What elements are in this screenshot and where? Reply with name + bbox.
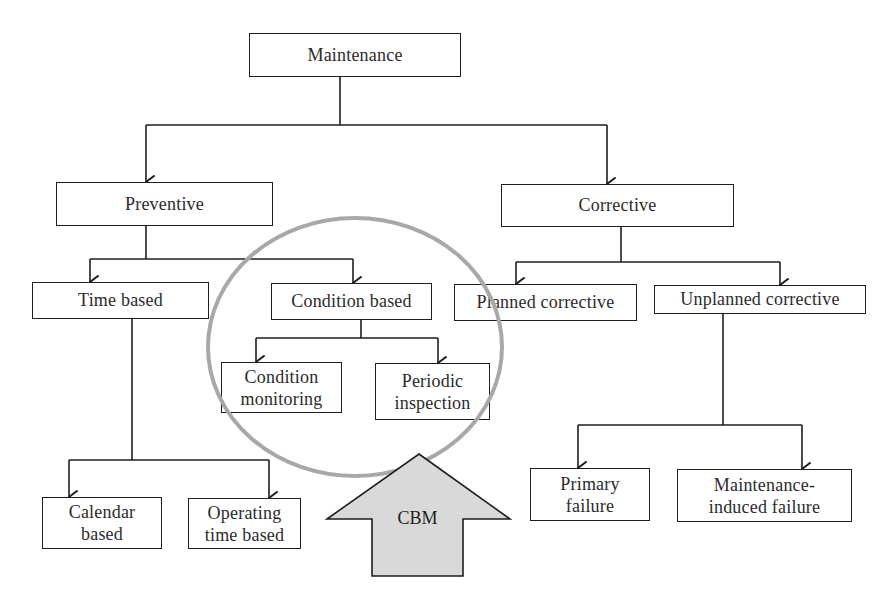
node-calendar-based-line1: Calendar bbox=[69, 501, 136, 523]
node-primary-failure-line2: failure bbox=[566, 495, 614, 517]
node-time-based: Time based bbox=[32, 282, 209, 319]
node-unplanned-corrective-label: Unplanned corrective bbox=[680, 289, 839, 310]
node-maintenance-label: Maintenance bbox=[307, 45, 402, 66]
node-maintenance: Maintenance bbox=[249, 33, 461, 77]
node-maintenance-induced-failure-line2: induced failure bbox=[709, 496, 820, 518]
node-planned-corrective: Planned corrective bbox=[454, 284, 637, 321]
node-operating-time-based-line2: time based bbox=[205, 524, 284, 546]
node-condition-based-label: Condition based bbox=[291, 291, 412, 312]
node-corrective: Corrective bbox=[501, 184, 734, 227]
node-time-based-label: Time based bbox=[78, 290, 163, 311]
node-maintenance-induced-failure: Maintenance- induced failure bbox=[677, 469, 852, 522]
maintenance-taxonomy-diagram: Maintenance Preventive Corrective Time b… bbox=[0, 0, 895, 605]
node-planned-corrective-label: Planned corrective bbox=[476, 292, 614, 313]
node-periodic-inspection: Periodic inspection bbox=[375, 363, 490, 420]
node-corrective-label: Corrective bbox=[579, 195, 657, 216]
node-maintenance-induced-failure-line1: Maintenance- bbox=[714, 474, 815, 496]
node-preventive: Preventive bbox=[56, 182, 273, 226]
node-operating-time-based: Operating time based bbox=[188, 498, 301, 549]
node-calendar-based-line2: based bbox=[81, 523, 123, 545]
cbm-arrow-label: CBM bbox=[372, 508, 463, 529]
node-primary-failure-line1: Primary bbox=[560, 473, 619, 495]
node-condition-monitoring-line2: monitoring bbox=[241, 388, 323, 410]
node-calendar-based: Calendar based bbox=[42, 497, 162, 549]
node-periodic-inspection-line2: inspection bbox=[395, 392, 471, 414]
node-condition-monitoring: Condition monitoring bbox=[221, 362, 342, 413]
node-condition-based: Condition based bbox=[271, 283, 432, 320]
node-unplanned-corrective: Unplanned corrective bbox=[654, 285, 866, 314]
node-primary-failure: Primary failure bbox=[530, 468, 650, 521]
node-periodic-inspection-line1: Periodic bbox=[402, 370, 464, 392]
node-preventive-label: Preventive bbox=[125, 194, 204, 215]
node-condition-monitoring-line1: Condition bbox=[245, 366, 319, 388]
node-operating-time-based-line1: Operating bbox=[208, 502, 282, 524]
